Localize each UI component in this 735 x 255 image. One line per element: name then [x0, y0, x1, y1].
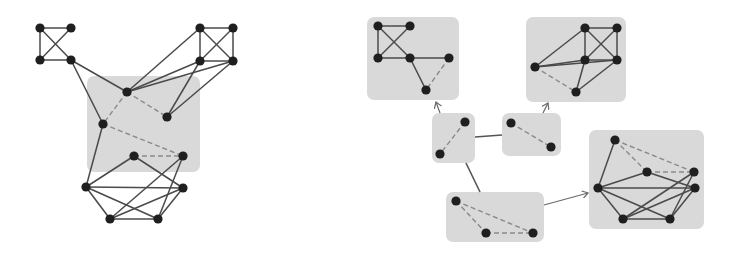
graph-node	[178, 151, 187, 160]
graph-node	[66, 55, 75, 64]
box-connection	[466, 163, 480, 192]
graph-edge	[86, 187, 183, 188]
graph-node	[195, 23, 204, 32]
graph-node	[129, 151, 138, 160]
graph-node	[546, 142, 555, 151]
graph-node	[195, 56, 204, 65]
graph-node	[66, 23, 75, 32]
graph-node	[612, 23, 621, 32]
graph-node	[405, 53, 414, 62]
graph-node	[153, 214, 162, 223]
graph-node	[35, 55, 44, 64]
graph-node	[405, 21, 414, 30]
graph-node	[435, 149, 444, 158]
hierarchy-arrow	[543, 103, 548, 113]
graph-node	[528, 228, 537, 237]
graph-node	[81, 182, 90, 191]
graph-node	[593, 183, 602, 192]
graph-node	[35, 23, 44, 32]
graph-node	[580, 55, 589, 64]
original-graph	[35, 23, 237, 223]
graph-node	[530, 62, 539, 71]
box-connection	[475, 135, 502, 137]
graph-node	[690, 183, 699, 192]
graph-node	[610, 135, 619, 144]
graph-node	[618, 214, 627, 223]
graph-node	[373, 53, 382, 62]
graph-node	[506, 118, 515, 127]
cluster-bottom-right-box	[589, 130, 704, 229]
graph-node	[612, 55, 621, 64]
graph-node	[444, 53, 453, 62]
graph-node	[481, 228, 490, 237]
graph-node	[373, 21, 382, 30]
graph-node	[228, 56, 237, 65]
hierarchy-arrow	[436, 102, 440, 113]
graph-node	[122, 87, 131, 96]
graph-node	[571, 87, 580, 96]
graph-node	[178, 183, 187, 192]
graph-node	[228, 23, 237, 32]
hierarchy-arrow	[544, 193, 588, 205]
clustered-graph	[367, 17, 704, 242]
graph-node	[642, 167, 651, 176]
graph-clustering-figure	[0, 0, 735, 255]
graph-node	[162, 112, 171, 121]
graph-node	[665, 214, 674, 223]
graph-node	[460, 117, 469, 126]
graph-node	[421, 85, 430, 94]
graph-node	[451, 196, 460, 205]
graph-node	[105, 214, 114, 223]
graph-node	[98, 119, 107, 128]
graph-node	[580, 23, 589, 32]
graph-node	[689, 167, 698, 176]
